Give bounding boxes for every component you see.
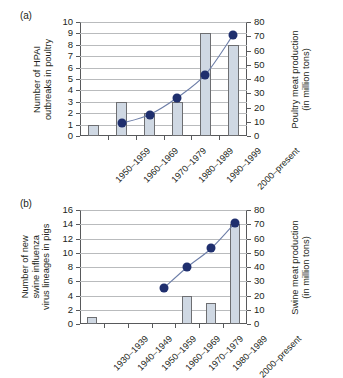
y-axis-label-right: 40 [254,74,276,84]
panel-b-right-axis-title: Swine meat production(in million tons) [290,207,311,327]
y-axis-label-left: 14 [51,220,73,230]
x-axis-tick [164,136,165,140]
axis-title-line: (in million tons) [300,19,311,139]
y-axis-label-left: 8 [51,40,73,50]
panel-a-right-axis-title: Poultry meat production(in million tons) [290,19,311,139]
y-axis-label-right: 80 [254,205,276,215]
y-axis-label-right: 10 [254,305,276,315]
y-axis-label-left: 2 [51,305,73,315]
x-axis-tick [199,324,200,328]
y-axis-tick-right [247,79,251,80]
y-axis-tick-left [76,310,80,311]
x-axis-tick [175,324,176,328]
y-axis-tick-left [76,90,80,91]
panel-b: (b) Number of newswine influenzavirus li… [0,188,343,378]
y-axis-tick-right [247,210,251,211]
data-point-marker [159,284,168,293]
x-axis-tick [136,136,137,140]
gridline [80,224,247,225]
y-axis-tick-left [76,281,80,282]
y-axis-tick-right [247,93,251,94]
y-axis-tick-left [76,68,80,69]
bar [230,224,240,324]
y-axis-tick-left [76,224,80,225]
y-axis-label-left: 10 [51,248,73,258]
panel-a-left-axis-title: Number of HPAIoutbreaks in poultry [32,19,53,139]
data-point-marker [231,218,240,227]
y-axis-label-left: 4 [51,86,73,96]
y-axis-label-right: 10 [254,117,276,127]
y-axis-tick-right [247,324,251,325]
y-axis-tick-left [76,210,80,211]
y-axis-label-right: 20 [254,291,276,301]
y-axis-tick-left [76,113,80,114]
y-axis-tick-left [76,102,80,103]
gridline [80,310,247,311]
gridline [80,267,247,268]
y-axis-label-left: 10 [51,17,73,27]
gridline [80,296,247,297]
y-axis-label-right: 50 [254,248,276,258]
y-axis-label-right: 30 [254,89,276,99]
bar [206,303,216,324]
y-axis-label-left: 7 [51,51,73,61]
y-axis-tick-left [76,253,80,254]
y-axis-tick-left [76,324,80,325]
y-axis-label-right: 0 [254,131,276,141]
panel-a: (a) Number of HPAIoutbreaks in poultry P… [0,0,343,190]
gridline [80,56,247,57]
x-axis-tick [191,136,192,140]
y-axis-label-left: 8 [51,262,73,272]
y-axis-tick-right [247,51,251,52]
x-axis-tick [128,324,129,328]
y-axis-tick-right [247,310,251,311]
y-axis-label-left: 12 [51,234,73,244]
bar [87,317,97,324]
y-axis-label-left: 0 [51,319,73,329]
y-axis-tick-right [247,296,251,297]
gridline [80,125,247,126]
y-axis-tick-right [247,65,251,66]
y-axis-tick-right [247,36,251,37]
axis-title-line: Poultry meat production [290,19,301,139]
y-axis-label-right: 30 [254,277,276,287]
y-axis-label-left: 3 [51,97,73,107]
bar [182,296,192,325]
gridline [80,79,247,80]
y-axis-label-left: 4 [51,291,73,301]
y-axis-label-right: 50 [254,60,276,70]
bar [172,102,183,136]
axis-title-line: (in million tons) [300,207,311,327]
x-axis-tick [108,136,109,140]
y-axis-label-left: 6 [51,63,73,73]
panel-a-label: (a) [20,10,32,21]
y-axis-tick-right [247,281,251,282]
data-point-marker [117,119,126,128]
panel-b-left-axis-title: Number of newswine influenzavirus lineag… [20,207,52,327]
y-axis-tick-left [76,125,80,126]
gridline [80,113,247,114]
y-axis-label-left: 2 [51,108,73,118]
axis-title-line: Number of new [20,207,31,327]
panel-a-plot-area: 012345678910010203040506070801950–195919… [80,22,247,136]
panel-b-plot-area: 0246810121416010203040506070801930–19391… [80,210,247,324]
y-axis-label-right: 70 [254,32,276,42]
y-axis-tick-right [247,253,251,254]
y-axis-tick-left [76,136,80,137]
data-point-marker [183,263,192,272]
gridline [80,68,247,69]
y-axis-label-right: 70 [254,220,276,230]
y-axis-tick-left [76,33,80,34]
y-axis-label-right: 20 [254,103,276,113]
y-axis-tick-left [76,79,80,80]
bar [228,45,239,136]
axis-title-line: Number of HPAI [32,19,43,139]
y-axis-label-left: 1 [51,120,73,130]
y-axis-tick-right [247,108,251,109]
data-point-marker [229,30,238,39]
y-axis-tick-left [76,296,80,297]
gridline [80,253,247,254]
axis-title-line: swine influenza [31,207,42,327]
x-axis-tick [223,324,224,328]
y-axis-label-right: 40 [254,262,276,272]
